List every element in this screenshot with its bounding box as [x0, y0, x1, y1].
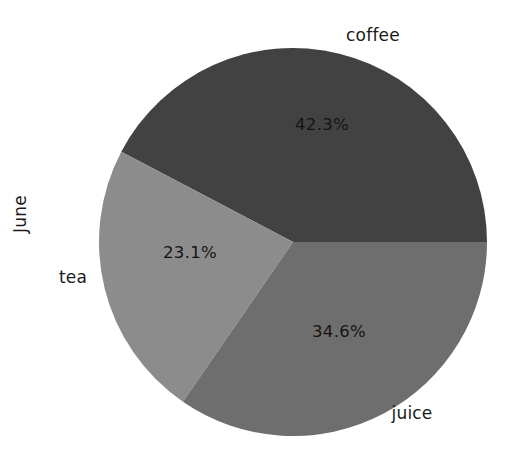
pie-wedge-label-coffee: coffee — [346, 25, 400, 45]
pie-pct-label-coffee: 42.3% — [295, 115, 349, 134]
y-axis-label-june: June — [10, 195, 30, 233]
pie-pct-label-juice: 34.6% — [312, 322, 366, 341]
pie-pct-label-tea: 23.1% — [163, 243, 217, 262]
pie-wedge-label-juice: juice — [391, 403, 432, 423]
pie-plot-area — [99, 48, 487, 436]
pie-chart-figure: June 42.3%coffee23.1%tea34.6%juice — [0, 0, 514, 450]
pie-wedge-label-tea: tea — [59, 267, 87, 287]
pie-svg — [99, 48, 487, 436]
pie-slices-group — [99, 48, 487, 436]
